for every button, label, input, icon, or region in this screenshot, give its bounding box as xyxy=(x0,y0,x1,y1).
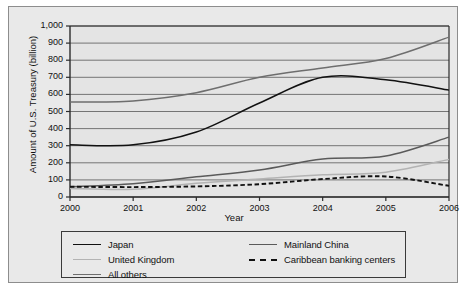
legend-item: All others xyxy=(73,268,147,281)
y-axis-tick-label: 600 xyxy=(9,88,63,98)
y-axis-tick-label: 800 xyxy=(9,54,63,64)
x-axis-label: Year xyxy=(9,212,459,223)
legend-item: Mainland China xyxy=(249,238,349,251)
legend-item: United Kingdom xyxy=(73,253,174,266)
legend-swatch-icon xyxy=(73,259,101,260)
x-axis-tick-label: 2005 xyxy=(364,203,408,213)
y-axis-tick-label: 0 xyxy=(9,191,63,201)
y-axis-tick-label: 900 xyxy=(9,37,63,47)
y-axis-tick-label: 1,000 xyxy=(9,20,63,30)
x-axis-tick-label: 2000 xyxy=(48,203,92,213)
legend-item: Japan xyxy=(73,238,133,251)
line-chart-plot xyxy=(9,7,459,228)
chart-region: Amount of U.S. Treasury (billion) Year 0… xyxy=(9,7,459,228)
x-axis-tick-label: 2003 xyxy=(238,203,282,213)
y-axis-tick-label: 700 xyxy=(9,71,63,81)
legend-item-label: Japan xyxy=(108,239,133,250)
legend-item: Caribbean banking centers xyxy=(249,253,395,266)
x-axis-tick-label: 2001 xyxy=(111,203,155,213)
chart-legend: JapanMainland ChinaUnited KingdomCaribbe… xyxy=(61,231,406,278)
legend-swatch-icon xyxy=(73,244,101,245)
figure-frame: Amount of U.S. Treasury (billion) Year 0… xyxy=(8,6,458,283)
legend-swatch-icon xyxy=(73,274,101,275)
legend-swatch-icon xyxy=(249,244,277,245)
legend-item-label: Caribbean banking centers xyxy=(284,254,395,265)
y-axis-tick-label: 500 xyxy=(9,106,63,116)
x-axis-tick-label: 2004 xyxy=(301,203,345,213)
x-axis-tick-label: 2002 xyxy=(174,203,218,213)
x-axis-tick-label: 2006 xyxy=(427,203,468,213)
legend-item-label: All others xyxy=(108,269,147,280)
legend-item-label: United Kingdom xyxy=(108,254,174,265)
y-axis-tick-label: 200 xyxy=(9,157,63,167)
legend-item-label: Mainland China xyxy=(284,239,349,250)
y-axis-tick-label: 100 xyxy=(9,174,63,184)
y-axis-tick-label: 400 xyxy=(9,123,63,133)
legend-swatch-icon xyxy=(249,259,277,261)
y-axis-tick-label: 300 xyxy=(9,140,63,150)
